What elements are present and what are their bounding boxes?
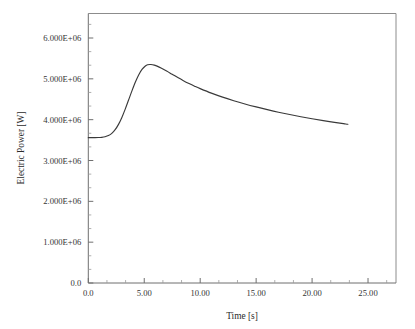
y-tick-label: 4.000E+06 <box>43 115 82 125</box>
x-tick-label: 10.00 <box>191 288 210 298</box>
x-axis-ticks <box>88 278 386 283</box>
plot-frame-outline <box>88 14 396 284</box>
plot-frame <box>88 14 396 284</box>
y-axis-title: Electric Power [W] <box>16 112 26 185</box>
data-series-group <box>88 65 348 138</box>
x-axis-tick-labels: 0.05.0010.0015.0020.0025.00 <box>83 288 378 298</box>
y-axis-ticks <box>88 24 93 283</box>
y-tick-label: 3.000E+06 <box>43 156 82 166</box>
y-tick-label: 0.0 <box>71 278 82 288</box>
y-tick-label: 2.000E+06 <box>43 196 82 206</box>
x-tick-label: 25.00 <box>358 288 377 298</box>
y-tick-label: 1.000E+06 <box>43 237 82 247</box>
chart-figure: 0.05.0010.0015.0020.0025.00 0.01.000E+06… <box>0 0 415 329</box>
x-axis-title: Time [s] <box>226 311 258 321</box>
x-tick-label: 15.00 <box>246 288 265 298</box>
x-tick-label: 5.00 <box>137 288 152 298</box>
y-tick-label: 6.000E+06 <box>43 33 82 43</box>
data-series-line-0 <box>88 65 348 138</box>
y-axis-tick-labels: 0.01.000E+062.000E+063.000E+064.000E+065… <box>43 33 82 288</box>
plot-axis-lines <box>88 14 396 284</box>
chart-plot-area: 0.05.0010.0015.0020.0025.00 0.01.000E+06… <box>0 0 415 329</box>
y-tick-label: 5.000E+06 <box>43 74 82 84</box>
x-tick-label: 0.0 <box>83 288 94 298</box>
x-tick-label: 20.00 <box>302 288 321 298</box>
